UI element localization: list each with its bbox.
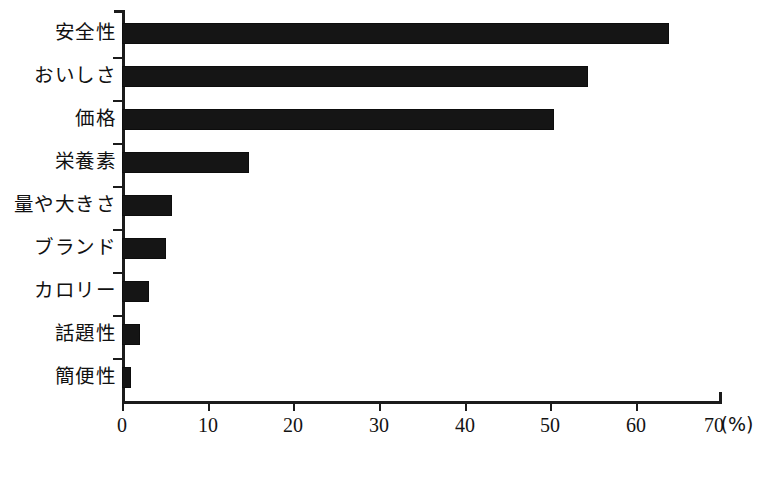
category-label-5: ブランド: [0, 238, 116, 258]
bar-3: [122, 152, 249, 173]
bar-8: [122, 367, 131, 388]
x-tick-label-2: 20: [283, 415, 303, 435]
x-tick-label-3: 30: [369, 415, 389, 435]
bar-7: [122, 324, 140, 345]
bar-chart: 安全性 おいしさ 価格 栄養素 量や大きさ ブランド カロリー 話題性 簡便性: [0, 0, 776, 477]
category-label-0: 安全性: [0, 23, 116, 43]
bar-2: [122, 109, 554, 130]
category-label-3: 栄養素: [0, 152, 116, 172]
x-axis-tick-20: [293, 401, 295, 411]
bar-0: [122, 23, 669, 44]
x-tick-label-0: 0: [117, 415, 127, 435]
bar-1: [122, 66, 588, 87]
x-axis-labels: 0 10 20 30 40 50 60 70 (%): [0, 415, 776, 455]
x-axis-line: [122, 401, 722, 404]
x-axis-tick-30: [379, 401, 381, 411]
bar-5: [122, 238, 166, 259]
bar-6: [122, 281, 149, 302]
category-label-7: 話題性: [0, 324, 116, 344]
y-axis-tick: [113, 358, 122, 360]
y-axis-tick: [113, 315, 122, 317]
y-axis-tick: [113, 57, 122, 59]
category-label-6: カロリー: [0, 281, 116, 301]
category-label-2: 価格: [0, 109, 116, 129]
y-axis-tick: [113, 186, 122, 188]
x-axis-tick-50: [550, 401, 552, 411]
x-tick-label-1: 10: [198, 415, 218, 435]
bar-4: [122, 195, 172, 216]
y-axis-top-cap: [114, 10, 124, 13]
category-label-8: 簡便性: [0, 367, 116, 387]
y-axis-tick: [113, 229, 122, 231]
x-tick-label-6: 60: [626, 415, 646, 435]
x-axis-tick-10: [208, 401, 210, 411]
y-axis-tick: [113, 100, 122, 102]
x-axis-right-cap: [719, 392, 722, 403]
x-axis-tick-0: [122, 401, 124, 411]
y-axis-tick: [113, 143, 122, 145]
x-axis-tick-60: [636, 401, 638, 411]
y-axis-tick: [113, 272, 122, 274]
category-label-4: 量や大きさ: [0, 195, 116, 215]
x-tick-label-4: 40: [455, 415, 475, 435]
category-label-1: おいしさ: [0, 66, 116, 86]
x-axis-tick-40: [465, 401, 467, 411]
plot-area: [122, 10, 722, 403]
x-tick-label-5: 50: [540, 415, 560, 435]
x-axis-unit-label: (%): [721, 415, 754, 434]
category-axis-labels: 安全性 おいしさ 価格 栄養素 量や大きさ ブランド カロリー 話題性 簡便性: [0, 0, 116, 410]
